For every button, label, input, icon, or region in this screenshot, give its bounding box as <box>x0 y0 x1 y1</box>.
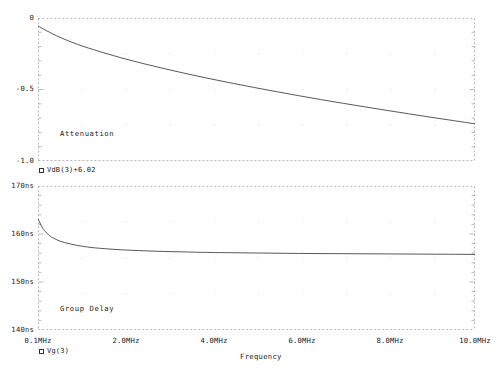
group-delay-trace <box>38 219 475 255</box>
y-minor-ticks <box>38 196 474 321</box>
group-delay-legend-label: Vg(3) <box>47 347 69 355</box>
ytick-atten-1: -0.5 <box>2 85 34 93</box>
xtick-2: 4.0MHz <box>194 336 234 345</box>
xtick-0: 0.1MHz <box>18 336 58 345</box>
xaxis-title: Frequency <box>240 352 282 361</box>
ytick-delay-0: 170ns <box>0 182 34 190</box>
grid-dots <box>82 53 436 125</box>
attenuation-trace <box>38 26 475 124</box>
square-marker-icon <box>39 168 44 173</box>
attenuation-legend[interactable]: VdB(3)+6.02 <box>39 166 96 174</box>
ytick-delay-1: 160ns <box>0 230 34 238</box>
attenuation-axes <box>38 18 475 161</box>
attenuation-plot: Attenuation <box>38 18 475 161</box>
group-delay-annotation: Group Delay <box>60 304 114 313</box>
grid-dots <box>82 221 436 294</box>
plot-canvas: Attenuation 0 -0.5 -1.0 VdB(3)+6.02 <box>0 0 501 370</box>
xtick-3: 6.0MHz <box>282 336 322 345</box>
ytick-atten-2: -1.0 <box>2 157 34 165</box>
attenuation-annotation: Attenuation <box>60 129 114 138</box>
group-delay-plot: Group Delay <box>38 186 475 330</box>
xtick-4: 8.0MHz <box>370 336 410 345</box>
ytick-delay-3: 140ns <box>0 326 34 334</box>
ytick-atten-0: 0 <box>2 14 34 22</box>
group-delay-legend[interactable]: Vg(3) <box>39 347 69 355</box>
top-artifact-text <box>96 0 100 7</box>
xtick-5: 10.0MHz <box>452 336 498 345</box>
attenuation-legend-label: VdB(3)+6.02 <box>47 166 96 174</box>
square-marker-icon <box>39 349 44 354</box>
xtick-1: 2.0MHz <box>106 336 146 345</box>
attenuation-svg <box>38 18 475 161</box>
ytick-delay-2: 150ns <box>0 278 34 286</box>
